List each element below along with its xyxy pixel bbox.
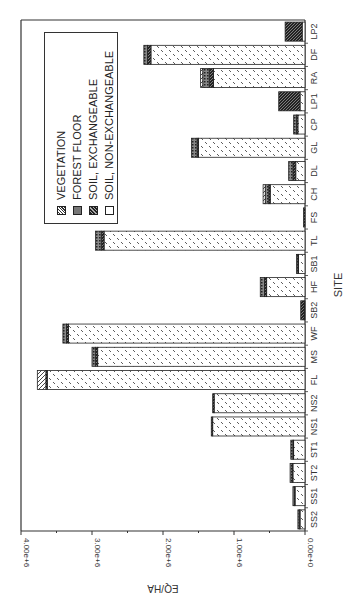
bar-segment [203, 69, 209, 88]
chart: 0.00e+01.00e+62.00e+63.00e+64.00e+6EQ/HA… [0, 0, 358, 611]
legend-label: SOIL, EXCHANGEABLE [87, 79, 99, 200]
bar-lp2 [285, 22, 305, 41]
bar-dl [289, 161, 305, 180]
legend-label: VEGETATION [55, 131, 67, 200]
x-tick-label: ST2 [309, 465, 319, 482]
bar-hf [260, 278, 305, 297]
bar-ra [201, 69, 305, 88]
bar-segment [300, 510, 305, 529]
x-tick-label: SS2 [309, 511, 319, 528]
y-axis-label: EQ/HA [147, 583, 178, 594]
bar-segment [291, 440, 293, 459]
bar-sb1 [296, 254, 305, 273]
bar-segment [294, 115, 297, 134]
bar-segment [92, 347, 96, 366]
bar-st1 [291, 440, 305, 459]
bar-df [144, 45, 305, 64]
bar-ss2 [298, 510, 305, 529]
legend-item-3: SOIL, NON-EXCHANGEABLE [103, 51, 115, 215]
bar-segment [290, 463, 292, 482]
bar-ss1 [293, 487, 305, 506]
bar-wf [63, 324, 305, 343]
bar-segment [301, 301, 305, 320]
bar-ms [92, 347, 305, 366]
x-tick-label: MS [309, 350, 319, 364]
x-tick-label: SB1 [309, 255, 319, 272]
y-tick-label: 1.00e+6 [235, 538, 244, 568]
bar-segment [213, 394, 214, 413]
bar-segment [101, 231, 104, 250]
legend: VEGETATIONFOREST FLOORSOIL, EXCHANGEABLE… [44, 32, 118, 224]
x-tick-label: LP2 [309, 24, 319, 40]
bar-segment [199, 138, 306, 157]
bar-segment [300, 92, 305, 111]
bar-segment [295, 487, 305, 506]
bar-segment [98, 347, 305, 366]
bar-segment [285, 22, 302, 41]
x-tick-label: CH [309, 188, 319, 201]
bar-ns1 [211, 417, 305, 436]
bar-segment [302, 22, 305, 41]
bar-segment [211, 417, 212, 436]
x-tick-label: NS2 [309, 394, 319, 412]
x-tick-label: DL [309, 165, 319, 177]
bar-cp [294, 115, 305, 134]
bar-segment [270, 185, 305, 204]
legend-item-2: SOIL, EXCHANGEABLE [87, 79, 99, 215]
bar-segment [69, 324, 305, 343]
bar-segment [263, 185, 265, 204]
bar-segment [298, 510, 299, 529]
x-tick-label: GL [309, 142, 319, 154]
bar-segment [304, 208, 305, 227]
bar-segment [293, 487, 294, 506]
x-tick-label: SB2 [309, 302, 319, 319]
bar-segment [294, 440, 305, 459]
bar-fl [37, 370, 305, 389]
legend-label: SOIL, NON-EXCHANGEABLE [103, 51, 115, 200]
bar-segment [298, 115, 305, 134]
x-tick-label: DF [309, 48, 319, 60]
legend-label: FOREST FLOOR [71, 115, 83, 200]
legend-swatch-icon [89, 206, 98, 215]
bar-segment [279, 92, 300, 111]
legend-item-0: VEGETATION [55, 131, 67, 215]
bar-segment [47, 370, 305, 389]
bar-segment [293, 161, 296, 180]
x-tick-label: SS1 [309, 488, 319, 505]
y-tick-label: 4.00e+6 [22, 538, 31, 568]
x-tick-label: TL [309, 235, 319, 246]
bar-segment [293, 463, 305, 482]
bar-ch [263, 185, 305, 204]
bar-segment [144, 45, 148, 64]
y-tick-label: 2.00e+6 [164, 538, 173, 568]
bar-gl [191, 138, 305, 157]
x-tick-label: WF [309, 326, 319, 340]
bar-segment [267, 278, 305, 297]
legend-swatch-icon [57, 206, 66, 215]
bar-segment [296, 161, 305, 180]
bar-tl [96, 231, 305, 250]
bar-segment [147, 45, 151, 64]
bar-segment [213, 69, 305, 88]
bar-lp1 [279, 92, 305, 111]
bar-segment [151, 45, 305, 64]
y-tick-label: 0.00e+0 [306, 538, 315, 568]
bar-segment [265, 185, 269, 204]
bar-ns2 [213, 394, 305, 413]
x-tick-label: RA [309, 72, 319, 85]
bar-segment [213, 417, 305, 436]
x-tick-label: ST1 [309, 441, 319, 458]
bar-segment [104, 231, 305, 250]
y-tick-label: 3.00e+6 [93, 538, 102, 568]
bar-segment [214, 394, 305, 413]
bar-segment [63, 324, 67, 343]
bar-fs [304, 208, 305, 227]
bar-segment [289, 161, 293, 180]
bar-segment [96, 231, 102, 250]
bar-segment [201, 69, 203, 88]
legend-swatch-icon [73, 206, 82, 215]
bar-segment [296, 254, 297, 273]
x-tick-label: HF [309, 281, 319, 293]
bar-segment [209, 69, 213, 88]
legend-swatch-icon [105, 206, 114, 215]
